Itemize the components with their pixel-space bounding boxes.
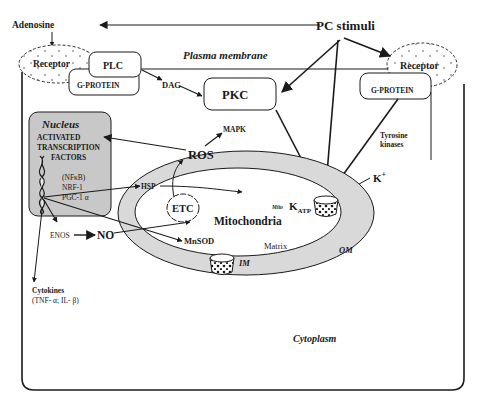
arrow-pc-to-katp — [326, 40, 338, 186]
arrow-pc-to-right-receptor — [344, 38, 390, 56]
ros-label: ROS — [188, 148, 214, 162]
im-label: IM — [238, 258, 250, 268]
tyrosine-label: Tyrosine — [380, 131, 408, 140]
mapk-label: MAPK — [223, 125, 246, 134]
k-plus-label: K+ — [373, 170, 387, 184]
im-channel-icon — [210, 254, 234, 275]
mnsod-label: MnSOD — [184, 236, 214, 246]
plasma-membrane-label: Plasma membrane — [183, 49, 268, 61]
arrow-ros-to-mapk — [205, 133, 222, 146]
left-g-protein-label: G-PROTEIN — [77, 81, 120, 90]
arrow-dag-to-pkc — [180, 86, 202, 96]
plc-label: PLC — [103, 60, 123, 71]
pc-stimuli-label: PC stimuli — [316, 18, 375, 33]
right-receptor-label: Receptor — [400, 60, 439, 71]
hsp-label: HSP — [141, 182, 156, 191]
enos-label: ENOS — [50, 231, 70, 240]
left-receptor-label: Receptor — [33, 59, 71, 69]
pkc-label: PKC — [222, 88, 248, 102]
cytoplasm-label: Cytoplasm — [293, 333, 337, 344]
om-label: OM — [339, 245, 353, 255]
arrow-pc-to-pkc — [282, 40, 340, 92]
mito-small-label: Mito — [271, 204, 283, 210]
matrix-label: Matrix — [264, 241, 288, 251]
cytokines-label: Cytokines — [32, 286, 64, 295]
right-g-protein-label: G-PROTEIN — [371, 86, 414, 95]
kinases-label: kinases — [380, 140, 403, 149]
factors-label: FACTORS — [51, 153, 86, 162]
transcription-label: TRANSCRIPTION — [37, 143, 101, 152]
arrow-nucleus-to-cytokines — [34, 210, 42, 282]
arrow-ros-to-nucleus — [104, 137, 186, 150]
nucleus-label: Nucleus — [41, 118, 79, 130]
cytokines-list-label: (TNF- α; IL- β) — [32, 296, 79, 305]
dag-label: DAG — [162, 80, 181, 90]
no-label: NO — [97, 229, 114, 241]
katp-channel-icon — [314, 196, 338, 217]
etc-label: ETC — [172, 203, 194, 214]
activated-label: ACTIVATED — [37, 133, 81, 142]
adenosine-label: Adenosine — [12, 20, 54, 30]
nfkb-label: (NFκB) — [62, 173, 86, 182]
pathway-diagram: Adenosine PC stimuli Receptor G-PROTEIN … — [0, 0, 478, 400]
mitochondria-label: Mitochondria — [214, 215, 282, 227]
nrf1-label: NRF-1 — [62, 183, 83, 192]
arrow-plc-to-dag — [142, 70, 162, 80]
